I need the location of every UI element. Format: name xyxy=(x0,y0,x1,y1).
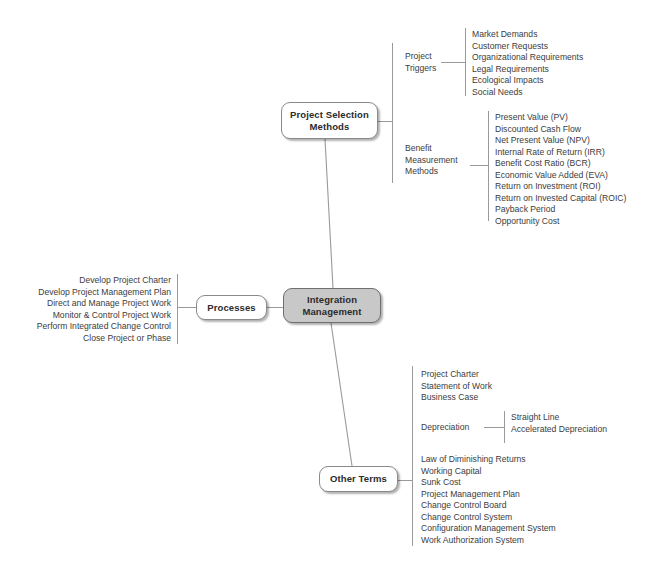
list-item: Business Case xyxy=(421,392,492,404)
branch-caption-project-triggers: Project Triggers xyxy=(405,51,436,74)
list-item: Net Present Value (NPV) xyxy=(495,135,626,147)
list-item: Benefit Cost Ratio (BCR) xyxy=(495,158,626,170)
list-item: Working Capital xyxy=(421,466,556,478)
mindmap-canvas: Integration Management Project Selection… xyxy=(0,0,649,574)
list-item: Opportunity Cost xyxy=(495,216,626,228)
node-integration-management[interactable]: Integration Management xyxy=(283,288,381,323)
node-other-terms[interactable]: Other Terms xyxy=(319,466,398,492)
list-item: Sunk Cost xyxy=(421,477,556,489)
node-integration-management-label: Integration Management xyxy=(302,294,361,318)
wire-center-to-selection xyxy=(325,139,333,288)
list-other-terms-documents: Project Charter Statement of Work Busine… xyxy=(421,369,492,404)
list-item: Market Demands xyxy=(472,29,583,41)
list-item: Organizational Requirements xyxy=(472,52,583,64)
list-item: Close Project or Phase xyxy=(0,333,171,345)
list-item: Perform Integrated Change Control xyxy=(0,321,171,333)
list-processes: Develop Project Charter Develop Project … xyxy=(0,275,171,344)
list-item: Project Charter xyxy=(421,369,492,381)
list-item: Social Needs xyxy=(472,87,583,99)
list-item: Project Management Plan xyxy=(421,489,556,501)
list-item: Statement of Work xyxy=(421,381,492,393)
node-project-selection-methods-label: Project Selection Methods xyxy=(290,109,369,133)
list-item: Develop Project Management Plan xyxy=(0,287,171,299)
list-item: Configuration Management System xyxy=(421,523,556,535)
list-item: Law of Diminishing Returns xyxy=(421,454,556,466)
list-item: Legal Requirements xyxy=(472,64,583,76)
list-item: Internal Rate of Return (IRR) xyxy=(495,147,626,159)
list-item: Return on Invested Capital (ROIC) xyxy=(495,193,626,205)
list-item: Monitor & Control Project Work xyxy=(0,310,171,322)
list-item: Work Authorization System xyxy=(421,535,556,547)
list-item: Customer Requests xyxy=(472,41,583,53)
list-item: Develop Project Charter xyxy=(0,275,171,287)
list-item: Economic Value Added (EVA) xyxy=(495,170,626,182)
branch-caption-benefit-measurement-methods: Benefit Measurement Methods xyxy=(405,143,458,178)
list-item: Direct and Manage Project Work xyxy=(0,298,171,310)
list-item: Change Control System xyxy=(421,512,556,524)
list-item: Discounted Cash Flow xyxy=(495,124,626,136)
branch-caption-depreciation: Depreciation xyxy=(421,422,469,434)
list-item: Return on Investment (ROI) xyxy=(495,181,626,193)
list-item: Present Value (PV) xyxy=(495,112,626,124)
node-processes-label: Processes xyxy=(207,302,255,314)
wire-center-to-other-terms xyxy=(331,323,352,466)
node-project-selection-methods[interactable]: Project Selection Methods xyxy=(281,102,378,139)
node-processes[interactable]: Processes xyxy=(196,295,267,320)
list-item: Payback Period xyxy=(495,204,626,216)
list-other-terms-concepts: Law of Diminishing Returns Working Capit… xyxy=(421,454,556,546)
list-benefit-measurement-methods: Present Value (PV) Discounted Cash Flow … xyxy=(495,112,626,227)
list-depreciation: Straight Line Accelerated Depreciation xyxy=(511,412,607,435)
list-item: Change Control Board xyxy=(421,500,556,512)
list-item: Ecological Impacts xyxy=(472,75,583,87)
list-item: Accelerated Depreciation xyxy=(511,424,607,436)
list-project-triggers: Market Demands Customer Requests Organiz… xyxy=(472,29,583,98)
list-item: Straight Line xyxy=(511,412,607,424)
node-other-terms-label: Other Terms xyxy=(330,473,387,485)
